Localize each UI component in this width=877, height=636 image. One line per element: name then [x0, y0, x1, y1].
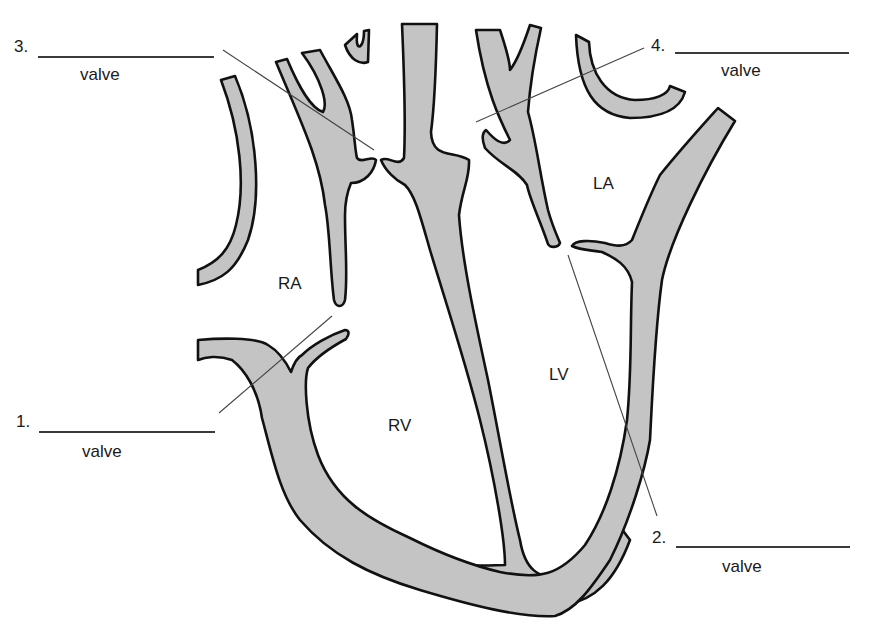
chamber-label-la: LA	[593, 174, 614, 193]
valve-label-4-caption: valve	[721, 61, 761, 80]
valve-label-3[interactable]: 3. valve	[14, 37, 214, 84]
valve-label-3-caption: valve	[80, 65, 120, 84]
chamber-label-ra: RA	[278, 274, 302, 293]
pulmonary-vein-arc	[576, 35, 685, 118]
valve-label-1[interactable]: 1. valve	[16, 412, 215, 461]
valve-label-4-number: 4.	[651, 36, 665, 55]
heart-diagram: 3. valve 4. valve 1. valve 2. valve RA L…	[0, 0, 877, 636]
right-atrium-outer-wall	[198, 76, 256, 285]
valve-label-3-number: 3.	[14, 37, 28, 56]
valve-label-4[interactable]: 4. valve	[651, 36, 849, 80]
left-atrial-septum-branch	[476, 25, 560, 247]
valve-label-2-caption: valve	[722, 557, 762, 576]
right-atrial-septum-branch	[276, 50, 376, 306]
valve-label-1-caption: valve	[82, 442, 122, 461]
small-vessel-fragment	[345, 30, 369, 63]
chamber-label-lv: LV	[549, 365, 569, 384]
valve-label-2[interactable]: 2. valve	[652, 528, 850, 576]
valve-label-1-number: 1.	[16, 412, 30, 431]
valve-label-2-number: 2.	[652, 528, 666, 547]
chamber-label-rv: RV	[388, 416, 412, 435]
